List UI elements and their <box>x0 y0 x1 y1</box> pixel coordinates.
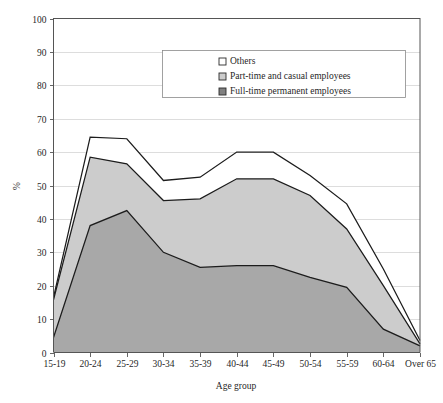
x-tick-label: 50-54 <box>299 359 321 369</box>
x-tick-labels: 15-1920-2425-2930-3435-3940-4445-4950-54… <box>43 359 436 369</box>
x-tick-label: 45-49 <box>262 359 284 369</box>
y-tick-label: 80 <box>37 81 47 91</box>
x-tick-label: 40-44 <box>226 359 248 369</box>
chart-container: 0102030405060708090100 15-1920-2425-2930… <box>0 0 443 403</box>
x-tick-label: 20-24 <box>79 359 101 369</box>
series-areas <box>54 137 421 352</box>
x-tick-label: 35-39 <box>189 359 211 369</box>
y-tick-label: 50 <box>37 182 47 192</box>
x-tick-label: 60-64 <box>372 359 394 369</box>
y-tick-label: 40 <box>37 215 47 225</box>
stacked-area-chart: 0102030405060708090100 15-1920-2425-2930… <box>0 0 443 403</box>
x-tick-label: 15-19 <box>43 359 65 369</box>
y-tick-label: 60 <box>37 148 47 158</box>
y-tick-label: 70 <box>37 115 47 125</box>
legend-item: Part-time and casual employees <box>219 71 351 81</box>
legend-swatch <box>219 73 226 80</box>
y-tick-label: 90 <box>37 48 47 58</box>
legend-swatch <box>219 88 226 95</box>
x-tick-label: 25-29 <box>116 359 138 369</box>
y-tick-label: 10 <box>37 315 47 325</box>
legend-swatch <box>219 58 226 65</box>
y-tick-label: 20 <box>37 282 47 292</box>
legend-label: Others <box>230 56 256 66</box>
legend-label: Part-time and casual employees <box>230 71 351 81</box>
x-tick-label: Over 65 <box>405 359 436 369</box>
y-axis-title: % <box>12 182 22 190</box>
y-tick-label: 0 <box>42 349 47 359</box>
x-tick-label: 30-34 <box>152 359 174 369</box>
x-tick-marks <box>55 353 421 357</box>
x-tick-label: 55-59 <box>336 359 358 369</box>
y-tick-labels: 0102030405060708090100 <box>32 15 47 359</box>
legend-label: Full-time permanent employees <box>230 86 351 96</box>
chart-legend: OthersPart-time and casual employeesFull… <box>163 51 406 98</box>
y-tick-marks <box>50 20 54 354</box>
legend-item: Full-time permanent employees <box>219 86 351 96</box>
x-axis-title: Age group <box>216 381 257 391</box>
y-tick-label: 100 <box>32 15 47 25</box>
y-tick-label: 30 <box>37 248 47 258</box>
